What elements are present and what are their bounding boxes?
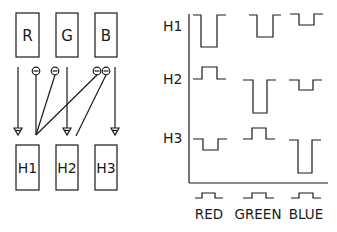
excitatory-arrow-icon-h1 bbox=[14, 128, 22, 135]
trace-h1-green bbox=[249, 15, 281, 37]
row-label-h1: H1 bbox=[163, 18, 182, 34]
row-label-h3: H3 bbox=[163, 130, 182, 146]
trace-h3-blue bbox=[289, 140, 321, 173]
stimulus-pulse-green bbox=[243, 193, 274, 198]
trace-h2-green bbox=[243, 80, 276, 113]
input-label-r: R bbox=[22, 27, 32, 45]
inhibitory-symbol-r bbox=[32, 67, 40, 75]
trace-h3-red bbox=[193, 139, 227, 150]
trace-h1-blue bbox=[290, 14, 323, 25]
trace-h2-blue bbox=[289, 80, 322, 90]
output-label-h3: H3 bbox=[96, 160, 115, 176]
excitatory-arrow-icon-h2 bbox=[63, 128, 71, 135]
column-label-green: GREEN bbox=[235, 206, 282, 222]
inhibitory-line-b-h2 bbox=[76, 75, 106, 136]
trace-h3-green bbox=[243, 128, 275, 139]
column-label-red: RED bbox=[195, 206, 223, 222]
input-label-g: G bbox=[61, 27, 73, 45]
excitatory-arrow-icon-h3 bbox=[111, 128, 119, 135]
stimulus-pulse-blue bbox=[291, 193, 321, 198]
row-label-h2: H2 bbox=[163, 71, 182, 87]
diagram-canvas: R G B H1 H2 H3 H1 H2 H3 RED GREEN BLUE bbox=[0, 0, 337, 232]
column-label-blue: BLUE bbox=[289, 206, 324, 222]
output-label-h1: H1 bbox=[18, 160, 37, 176]
trace-h1-red bbox=[193, 15, 226, 47]
trace-h2-red bbox=[193, 67, 226, 79]
inhibitory-symbol-b2 bbox=[102, 67, 110, 75]
output-label-h2: H2 bbox=[57, 160, 76, 176]
inhibitory-symbol-b1 bbox=[93, 67, 101, 75]
inhibitory-symbol-g bbox=[51, 67, 59, 75]
stimulus-pulse-red bbox=[195, 193, 223, 198]
input-label-b: B bbox=[101, 27, 111, 45]
